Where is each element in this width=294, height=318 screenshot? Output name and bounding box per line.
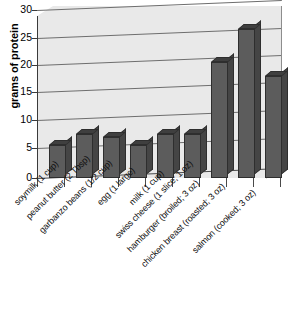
y-tick-label: 25 (12, 32, 32, 43)
y-axis-tick-group: 30 25 20 15 10 5 0 (10, 0, 32, 190)
bar-hamburger (211, 62, 228, 178)
y-tick-label: 5 (12, 142, 32, 153)
y-tick-label: 10 (12, 114, 32, 125)
bar-side (255, 20, 261, 174)
bar-chicken-breast (238, 29, 255, 178)
y-tick-label: 15 (12, 86, 32, 97)
y-tick-label: 30 (12, 4, 32, 15)
y-axis-spine (37, 16, 38, 178)
protein-bar-chart: grams of protein 30 25 20 15 10 5 0 (0, 0, 294, 318)
bar-side (282, 67, 288, 174)
bar-salmon (265, 76, 282, 178)
x-axis-label-salmon: salmon (cooked; 3 oz) (190, 188, 257, 255)
bar-side (228, 53, 234, 174)
y-tick-label: 0 (12, 172, 32, 183)
plot-area (37, 6, 282, 178)
y-tick-label: 20 (12, 59, 32, 70)
bar-face (238, 29, 255, 178)
bar-face (265, 76, 282, 178)
bar-face (211, 62, 228, 178)
x-axis-label-group: soymilk (1 cup) peanut butter (2 Tbsp) g… (0, 186, 294, 318)
